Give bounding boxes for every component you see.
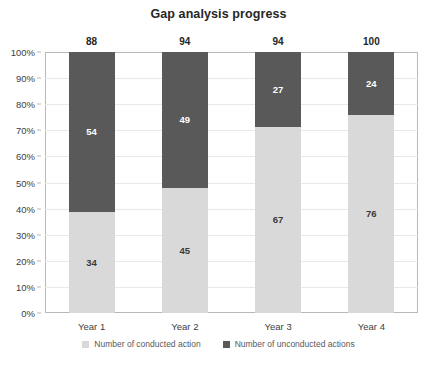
plot-area-wrapper: 5434884945942767942476100 [45,52,418,313]
bar-segment-conducted[interactable]: 34 [69,212,115,313]
y-tick-label: 10% [16,281,35,292]
x-tick-label-4: Year 4 [325,314,418,332]
bar-slot: 276794 [232,52,325,313]
legend-item-1[interactable]: Number of conducted action [82,339,200,349]
y-axis: 0%10%20%30%40%50%60%70%80%90%100% [0,52,41,313]
bar-slot: 2476100 [325,52,418,313]
gap-analysis-chart: Gap analysis progress 0%10%20%30%40%50%6… [0,0,437,367]
legend-swatch-icon [223,341,230,348]
stacked-bar[interactable]: 543488 [69,52,115,313]
y-tick-mark [37,260,41,261]
y-tick-mark [37,78,41,79]
y-tick-label: 0% [21,308,35,319]
bar-slot: 494594 [138,52,231,313]
y-tick-label: 20% [16,255,35,266]
stacked-bar[interactable]: 2476100 [348,52,394,313]
legend-label: Number of conducted action [94,339,200,349]
y-tick-label: 40% [16,203,35,214]
y-tick-mark [37,313,41,314]
legend-swatch-icon [82,341,89,348]
bar-total-label: 88 [86,36,97,47]
chart-legend: Number of conducted actionNumber of unco… [0,339,437,349]
bar-segment-conducted[interactable]: 67 [255,127,301,313]
bars-layer: 5434884945942767942476100 [45,52,418,313]
bar-segment-unconducted[interactable]: 49 [162,52,208,188]
bar-segment-value: 49 [180,115,191,125]
bar-slot: 543488 [45,52,138,313]
bar-total-label: 94 [273,36,284,47]
bar-segment-value: 34 [86,258,97,268]
legend-label: Number of unconducted actions [235,339,355,349]
y-tick-label: 80% [16,99,35,110]
y-tick-label: 30% [16,229,35,240]
x-tick-label-1: Year 1 [45,314,138,332]
bar-segment-unconducted[interactable]: 24 [348,52,394,115]
y-tick-mark [37,234,41,235]
x-tick-label-2: Year 2 [138,314,231,332]
bar-total-label: 94 [179,36,190,47]
y-tick-label: 60% [16,151,35,162]
y-tick-mark [37,286,41,287]
y-tick-label: 50% [16,177,35,188]
bar-segment-value: 54 [86,127,97,137]
y-tick-mark [37,130,41,131]
bar-total-label: 100 [363,36,380,47]
y-tick-label: 70% [16,125,35,136]
stacked-bar[interactable]: 276794 [255,52,301,313]
stacked-bar[interactable]: 494594 [162,52,208,313]
x-axis: Year 1Year 2Year 3Year 4 [45,314,418,332]
bar-segment-value: 76 [366,209,377,219]
y-tick-mark [37,182,41,183]
bar-segment-value: 24 [366,79,377,89]
y-tick-mark [37,52,41,53]
bar-segment-value: 45 [180,246,191,256]
y-tick-label: 100% [11,47,35,58]
bar-segment-unconducted[interactable]: 54 [69,52,115,212]
y-tick-mark [37,156,41,157]
y-tick-label: 90% [16,73,35,84]
bar-segment-unconducted[interactable]: 27 [255,52,301,127]
bar-segment-value: 27 [273,85,284,95]
y-tick-mark [37,208,41,209]
x-tick-label-3: Year 3 [232,314,325,332]
bar-segment-conducted[interactable]: 76 [348,115,394,313]
bar-segment-value: 67 [273,215,284,225]
bar-segment-conducted[interactable]: 45 [162,188,208,313]
y-tick-mark [37,104,41,105]
chart-title: Gap analysis progress [0,7,437,21]
legend-item-2[interactable]: Number of unconducted actions [223,339,355,349]
